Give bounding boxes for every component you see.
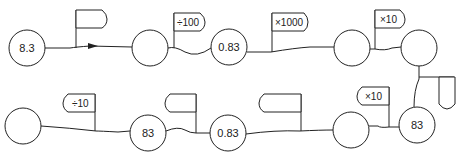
connector-n5-n6 bbox=[414, 66, 419, 107]
node-n6: 83 bbox=[399, 107, 435, 143]
operator-flag-op5 bbox=[419, 77, 455, 109]
operator-flag-op2: ÷100 bbox=[174, 13, 205, 48]
svg-text:8.3: 8.3 bbox=[19, 42, 34, 54]
svg-text:÷100: ÷100 bbox=[177, 17, 200, 28]
connector-n3-n4 bbox=[247, 47, 334, 52]
operator-flag-op7 bbox=[259, 94, 301, 131]
operator-flag-op4: ×10 bbox=[375, 10, 405, 49]
svg-text:0.83: 0.83 bbox=[217, 127, 238, 139]
svg-text:83: 83 bbox=[142, 127, 154, 139]
node-n4 bbox=[334, 30, 370, 66]
connector-n8-n9 bbox=[166, 128, 210, 133]
node-n2 bbox=[132, 30, 168, 66]
node-n9: 83 bbox=[130, 115, 166, 151]
node-n1: 8.3 bbox=[9, 30, 45, 66]
node-n10 bbox=[5, 108, 41, 144]
svg-text:×1000: ×1000 bbox=[275, 17, 304, 28]
operator-flag-op8 bbox=[165, 94, 196, 133]
node-n3: 0.83 bbox=[211, 29, 247, 65]
svg-text:83: 83 bbox=[411, 119, 423, 131]
node-n7 bbox=[333, 112, 369, 148]
node-n5 bbox=[401, 30, 437, 66]
connector-n9-n10 bbox=[41, 126, 130, 132]
svg-text:×10: ×10 bbox=[365, 91, 382, 102]
node-n8: 0.83 bbox=[210, 115, 246, 151]
arrowhead-icon bbox=[88, 43, 98, 49]
connector-n6-n7 bbox=[369, 126, 399, 127]
svg-text:÷10: ÷10 bbox=[72, 98, 89, 109]
connector-n2-n3 bbox=[168, 48, 211, 55]
connector-n7-n8 bbox=[246, 130, 333, 134]
conversion-diagram: ÷100 ×1000 ×10 ×10 ÷10 8.3 bbox=[0, 0, 461, 156]
svg-text:×10: ×10 bbox=[380, 14, 397, 25]
operator-flag-op9: ÷10 bbox=[63, 94, 95, 131]
operator-flag-op1 bbox=[76, 10, 107, 48]
svg-text:0.83: 0.83 bbox=[218, 41, 239, 53]
operator-flag-op3: ×1000 bbox=[272, 13, 308, 52]
